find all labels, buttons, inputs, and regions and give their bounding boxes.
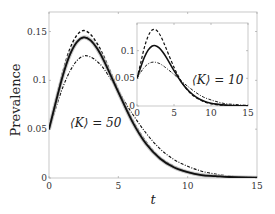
- x-tick-label: 15: [242, 108, 254, 118]
- x-tick-label: 5: [171, 108, 177, 118]
- y-axis-label: Prevalence: [8, 63, 23, 136]
- x-tick-label: 0: [46, 181, 52, 191]
- y-tick-label: 0.05: [115, 73, 135, 83]
- x-tick-label: 10: [182, 181, 194, 191]
- x-tick-label: 0: [134, 108, 140, 118]
- x-tick-label: 5: [115, 181, 121, 191]
- y-tick-label: 0: [129, 101, 135, 111]
- y-tick-label: 0.1: [33, 75, 47, 85]
- x-tick-label: 10: [205, 108, 217, 118]
- y-tick-label: 0.05: [27, 124, 47, 134]
- x-tick-label: 15: [251, 181, 263, 191]
- main-annotation: ⟨K⟩ = 50: [70, 116, 122, 130]
- inset-annotation: ⟨K⟩ = 10: [192, 73, 244, 87]
- y-tick-label: 0.1: [121, 46, 135, 56]
- y-tick-label: 0: [41, 173, 47, 183]
- chart-canvas: 05101500.050.10.15⟨K⟩ = 50Prevalencet051…: [0, 0, 275, 214]
- y-tick-label: 0.15: [27, 27, 47, 37]
- x-axis-label: t: [150, 192, 156, 207]
